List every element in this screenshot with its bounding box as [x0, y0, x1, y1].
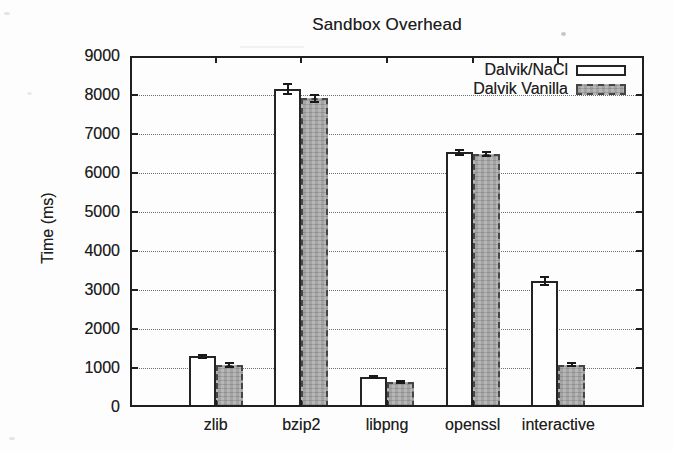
y-tick-label: 5000 [32, 203, 120, 221]
error-bar-cap [455, 149, 464, 151]
error-bar-cap [198, 357, 207, 359]
y-tick-label: 3000 [32, 281, 120, 299]
bar-dalvik-nacl-interactive [531, 281, 558, 407]
error-bar-cap [540, 284, 549, 286]
y-tick-mark [636, 211, 644, 213]
x-category-label-bzip2: bzip2 [282, 416, 320, 434]
legend-item-dalvik-vanilla: Dalvik Vanilla [473, 80, 626, 98]
error-bar-cap [567, 365, 576, 367]
y-tick-mark [636, 328, 644, 330]
y-tick-mark [130, 328, 138, 330]
bar-dalvik-nacl-openssl [446, 152, 473, 407]
gridline [130, 290, 644, 291]
y-tick-label: 2000 [32, 320, 120, 338]
y-tick-mark [636, 289, 644, 291]
scan-smudge [240, 46, 304, 48]
bar-dalvik-vanilla-bzip2 [301, 98, 328, 407]
y-tick-mark [636, 367, 644, 369]
gridline [130, 134, 644, 135]
legend-swatch-dalvik-nacl [576, 65, 626, 76]
x-tick-mark [386, 400, 388, 407]
x-tick-mark [557, 400, 559, 407]
error-bar-cap [567, 362, 576, 364]
y-tick-mark [130, 133, 138, 135]
plot-frame [130, 56, 644, 407]
bar-dalvik-vanilla-openssl [473, 154, 500, 407]
x-tick-mark [215, 400, 217, 407]
bar-dalvik-nacl-bzip2 [274, 89, 301, 407]
error-bar-cap [310, 101, 319, 103]
bar-dalvik-nacl-libpng [360, 377, 387, 407]
x-category-label-zlib: zlib [204, 416, 228, 434]
y-tick-mark [130, 211, 138, 213]
y-tick-mark [130, 94, 138, 96]
x-category-label-interactive: interactive [522, 416, 595, 434]
error-bar-cap [396, 380, 405, 382]
y-tick-mark [130, 289, 138, 291]
x-tick-mark [215, 56, 217, 63]
legend-label: Dalvik Vanilla [473, 80, 568, 98]
sandbox-overhead-chart: Sandbox Overhead Time (ms) 0100020003000… [0, 0, 673, 453]
error-bar-cap [310, 94, 319, 96]
legend-label: Dalvik/NaCl [484, 61, 568, 79]
error-bar-cap [369, 375, 378, 377]
gridline [130, 251, 644, 252]
error-bar-cap [283, 93, 292, 95]
bar-dalvik-nacl-zlib [189, 356, 216, 407]
x-tick-mark [472, 400, 474, 407]
plot-area: Dalvik/NaClDalvik Vanilla [130, 56, 644, 407]
y-tick-label: 7000 [32, 125, 120, 143]
y-axis-tick-labels: 0100020003000400050006000700080009000 [32, 56, 120, 407]
bar-dalvik-vanilla-zlib [216, 365, 243, 407]
y-tick-label: 9000 [32, 47, 120, 65]
scan-speck [9, 437, 15, 440]
y-tick-mark [636, 172, 644, 174]
error-bar-cap [225, 366, 234, 368]
legend-swatch-dalvik-vanilla [576, 84, 626, 95]
x-tick-mark [386, 56, 388, 63]
x-tick-mark [300, 56, 302, 63]
scan-speck [561, 32, 566, 36]
x-axis-category-labels: zlibbzip2libpngopensslinteractive [130, 416, 644, 438]
y-tick-mark [636, 250, 644, 252]
y-tick-mark [130, 250, 138, 252]
y-tick-label: 8000 [32, 86, 120, 104]
y-tick-mark [130, 172, 138, 174]
x-category-label-libpng: libpng [366, 416, 409, 434]
error-bar-cap [396, 382, 405, 384]
y-tick-mark [636, 94, 644, 96]
legend-item-dalvik-nacl: Dalvik/NaCl [484, 61, 626, 79]
error-bar-cap [283, 83, 292, 85]
chart-title: Sandbox Overhead [130, 15, 644, 35]
scan-speck [27, 92, 32, 95]
error-bar-cap [455, 154, 464, 156]
gridline [130, 329, 644, 330]
gridline [130, 173, 644, 174]
bar-dalvik-vanilla-libpng [387, 382, 414, 407]
y-tick-label: 1000 [32, 359, 120, 377]
error-bar-cap [369, 377, 378, 379]
bar-dalvik-vanilla-interactive [558, 365, 585, 408]
y-tick-label: 4000 [32, 242, 120, 260]
error-bar-cap [482, 151, 491, 153]
gridline [130, 212, 644, 213]
error-bar-cap [225, 362, 234, 364]
x-tick-mark [300, 400, 302, 407]
error-bar-cap [540, 276, 549, 278]
y-tick-mark [130, 367, 138, 369]
x-category-label-openssl: openssl [445, 416, 500, 434]
scan-speck [4, 12, 10, 15]
legend: Dalvik/NaClDalvik Vanilla [473, 61, 626, 98]
y-tick-mark [636, 133, 644, 135]
error-bar-cap [482, 155, 491, 157]
error-bar-cap [198, 354, 207, 356]
y-tick-label: 0 [32, 398, 120, 416]
y-tick-label: 6000 [32, 164, 120, 182]
